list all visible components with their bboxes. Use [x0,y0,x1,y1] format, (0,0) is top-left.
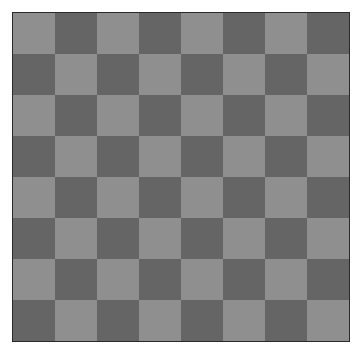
square-h8[interactable] [307,13,349,54]
square-b1[interactable] [55,300,97,341]
square-e8[interactable] [181,13,223,54]
square-b6[interactable] [55,95,97,136]
square-e3[interactable] [181,218,223,259]
square-f4[interactable] [223,177,265,218]
square-d5[interactable] [139,136,181,177]
square-h1[interactable] [307,300,349,341]
square-c4[interactable] [97,177,139,218]
square-c2[interactable] [97,259,139,300]
square-f7[interactable] [223,54,265,95]
square-d3[interactable] [139,218,181,259]
square-h3[interactable] [307,218,349,259]
square-f5[interactable] [223,136,265,177]
square-e5[interactable] [181,136,223,177]
square-a5[interactable] [13,136,55,177]
square-f8[interactable] [223,13,265,54]
square-b4[interactable] [55,177,97,218]
square-c1[interactable] [97,300,139,341]
square-g8[interactable] [265,13,307,54]
square-c5[interactable] [97,136,139,177]
square-d4[interactable] [139,177,181,218]
square-a6[interactable] [13,95,55,136]
square-f1[interactable] [223,300,265,341]
square-g1[interactable] [265,300,307,341]
square-d2[interactable] [139,259,181,300]
square-e6[interactable] [181,95,223,136]
square-e4[interactable] [181,177,223,218]
square-c3[interactable] [97,218,139,259]
square-c8[interactable] [97,13,139,54]
square-b2[interactable] [55,259,97,300]
square-b3[interactable] [55,218,97,259]
square-h2[interactable] [307,259,349,300]
square-h4[interactable] [307,177,349,218]
square-d1[interactable] [139,300,181,341]
square-g6[interactable] [265,95,307,136]
square-e2[interactable] [181,259,223,300]
square-a1[interactable] [13,300,55,341]
square-a2[interactable] [13,259,55,300]
square-a7[interactable] [13,54,55,95]
square-b7[interactable] [55,54,97,95]
square-h7[interactable] [307,54,349,95]
square-g7[interactable] [265,54,307,95]
square-d8[interactable] [139,13,181,54]
square-e7[interactable] [181,54,223,95]
square-f6[interactable] [223,95,265,136]
square-a8[interactable] [13,13,55,54]
square-g3[interactable] [265,218,307,259]
square-a3[interactable] [13,218,55,259]
square-b5[interactable] [55,136,97,177]
square-e1[interactable] [181,300,223,341]
square-a4[interactable] [13,177,55,218]
square-g5[interactable] [265,136,307,177]
square-h6[interactable] [307,95,349,136]
square-d6[interactable] [139,95,181,136]
square-c6[interactable] [97,95,139,136]
square-f2[interactable] [223,259,265,300]
square-h5[interactable] [307,136,349,177]
square-f3[interactable] [223,218,265,259]
chess-board[interactable] [12,12,350,342]
square-g2[interactable] [265,259,307,300]
square-b8[interactable] [55,13,97,54]
square-g4[interactable] [265,177,307,218]
square-c7[interactable] [97,54,139,95]
square-d7[interactable] [139,54,181,95]
